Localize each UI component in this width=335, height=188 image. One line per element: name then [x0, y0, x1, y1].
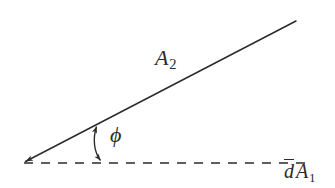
label-da1: dA1	[284, 159, 316, 184]
angle-indicator-arrow	[94, 127, 100, 161]
label-a2: A2	[155, 47, 177, 72]
slant-line-a2	[26, 21, 297, 162]
figure-root: A2 ϕ dA1	[0, 0, 335, 188]
label-phi: ϕ	[110, 124, 121, 146]
label-da1-base: A	[294, 160, 308, 182]
label-da1-subscript: 1	[308, 170, 315, 185]
label-a2-subscript: 2	[168, 56, 176, 72]
label-da1-d-overline: d	[284, 159, 294, 181]
label-a2-base: A	[155, 45, 168, 70]
